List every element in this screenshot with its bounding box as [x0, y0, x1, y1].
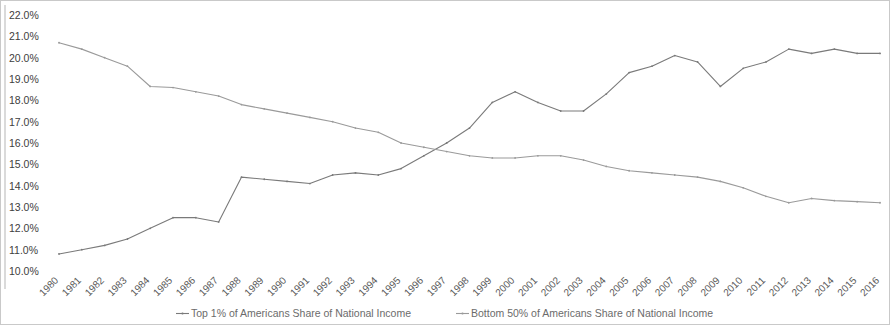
income-share-line-chart: 22.0%21.0%20.0%19.0%18.0%17.0%16.0%15.0%…: [0, 0, 890, 325]
series-1-point: [697, 176, 699, 178]
x-axis-tick-label: 1981: [60, 274, 84, 298]
x-axis-tick-label: 1985: [151, 274, 175, 298]
y-axis-tick-label: 17.0%: [9, 116, 39, 128]
series-1-point: [491, 157, 493, 159]
series-1-point: [377, 131, 379, 133]
series-1-point: [674, 174, 676, 176]
legend-label-1: Bottom 50% of Americans Share of Nationa…: [471, 307, 713, 319]
series-1-point: [765, 195, 767, 197]
series-0-point: [491, 102, 493, 104]
x-axis-tick-label: 1986: [174, 274, 198, 298]
legend-marker-dot-0: [181, 312, 183, 314]
series-0-point: [514, 91, 516, 93]
series-1-point: [560, 155, 562, 157]
series-1-point: [788, 202, 790, 204]
series-1-point: [127, 65, 129, 67]
x-axis-tick-label: 1989: [242, 274, 266, 298]
series-0-point: [856, 53, 858, 55]
series-0-point: [605, 93, 607, 95]
series-1-point: [742, 187, 744, 189]
x-axis-tick-label: 1992: [311, 274, 335, 298]
series-0-point: [400, 168, 402, 170]
series-0-point: [149, 227, 151, 229]
series-1-point: [719, 181, 721, 183]
series-0-point: [765, 61, 767, 63]
series-1-point: [583, 159, 585, 161]
series-0-point: [332, 174, 334, 176]
x-axis-tick-label: 2006: [630, 274, 654, 298]
series-1-point: [651, 172, 653, 174]
x-axis-tick-label: 2008: [675, 274, 699, 298]
x-axis-tick-label: 1983: [105, 274, 129, 298]
x-axis-tick-label: 2011: [744, 274, 767, 297]
x-axis-tick-label: 2014: [812, 274, 836, 298]
series-1-point: [309, 117, 311, 119]
series-1-point: [537, 155, 539, 157]
legend-label-0: Top 1% of Americans Share of National In…: [191, 307, 411, 319]
series-0-point: [879, 53, 881, 55]
series-0-point: [218, 221, 220, 223]
y-axis-tick-label: 21.0%: [9, 30, 39, 42]
x-axis-tick-label: 2004: [584, 274, 608, 298]
x-axis-tick-label: 2005: [607, 274, 631, 298]
series-0-point: [423, 155, 425, 157]
series-1-point: [833, 200, 835, 202]
series-0-point: [628, 72, 630, 74]
x-axis-tick-label: 2012: [767, 274, 791, 298]
legend-marker-dot-1: [461, 312, 463, 314]
x-axis-tick-label: 1997: [425, 274, 449, 298]
series-1-point: [811, 198, 813, 200]
x-axis-tick-label: 1995: [379, 274, 403, 298]
y-axis-tick-labels: 22.0%21.0%20.0%19.0%18.0%17.0%16.0%15.0%…: [9, 9, 39, 277]
x-axis-tick-labels: 1980198119821983198419851986198719881989…: [37, 274, 882, 298]
series-0-point: [195, 217, 197, 219]
series-1-point: [81, 48, 83, 50]
series-1-point: [241, 104, 243, 106]
series-1-point: [423, 146, 425, 148]
x-axis-tick-label: 2013: [789, 274, 813, 298]
chart-canvas: 22.0%21.0%20.0%19.0%18.0%17.0%16.0%15.0%…: [1, 1, 890, 325]
series-1-point: [628, 170, 630, 172]
series-1-point: [856, 201, 858, 203]
x-axis-tick-label: 2000: [493, 274, 517, 298]
y-axis-tick-label: 12.0%: [9, 222, 39, 234]
x-axis-tick-label: 2016: [858, 274, 882, 298]
series-line-1: [59, 43, 880, 203]
x-axis-tick-label: 1988: [219, 274, 243, 298]
series-0-point: [172, 217, 174, 219]
y-axis-tick-label: 18.0%: [9, 94, 39, 106]
series-1-point: [605, 166, 607, 168]
chart-legend: Top 1% of Americans Share of National In…: [176, 307, 713, 319]
series-1-point: [149, 86, 151, 88]
y-axis-tick-label: 13.0%: [9, 201, 39, 213]
series-0-point: [377, 174, 379, 176]
series-line-0: [59, 49, 880, 254]
series-0-point: [674, 55, 676, 57]
y-axis-tick-label: 20.0%: [9, 52, 39, 64]
x-axis-tick-label: 2002: [539, 274, 563, 298]
x-axis-tick-label: 2009: [698, 274, 722, 298]
series-1-point: [58, 42, 60, 44]
series-1-point: [263, 108, 265, 110]
series-0-point: [537, 102, 539, 104]
x-axis-tick-label: 1987: [197, 274, 221, 298]
series-1-point: [286, 112, 288, 114]
series-lines: [58, 42, 881, 255]
series-1-point: [514, 157, 516, 159]
series-0-point: [651, 65, 653, 67]
series-1-point: [469, 155, 471, 157]
series-1-point: [218, 95, 220, 97]
x-axis-tick-label: 2010: [721, 274, 745, 298]
series-1-point: [879, 202, 881, 204]
y-axis-tick-label: 22.0%: [9, 9, 39, 21]
series-0-point: [104, 245, 106, 247]
series-0-point: [241, 176, 243, 178]
x-axis-tick-label: 1980: [37, 274, 61, 298]
y-axis-tick-label: 15.0%: [9, 158, 39, 170]
series-0-point: [263, 178, 265, 180]
x-axis-tick-label: 1984: [128, 274, 152, 298]
x-axis-tick-label: 2007: [653, 274, 677, 298]
series-1-point: [355, 127, 357, 129]
series-1-point: [104, 57, 106, 59]
x-axis-tick-label: 1999: [470, 274, 494, 298]
